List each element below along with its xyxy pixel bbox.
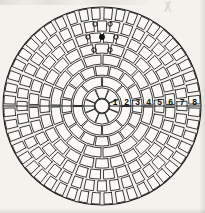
ring-label-3: 3 xyxy=(135,97,140,107)
grid-cell xyxy=(103,55,121,67)
grid-cell xyxy=(152,156,166,170)
polar-grid-diagram: 12345678 xyxy=(0,0,205,213)
grid-cell xyxy=(51,87,63,105)
grid-cell xyxy=(104,192,113,204)
grid-cell xyxy=(29,93,39,104)
filled-dot-marker xyxy=(99,34,104,39)
grid-cell xyxy=(167,63,180,76)
grid-cell xyxy=(24,63,37,76)
grid-cell xyxy=(91,8,100,20)
grid-cell xyxy=(175,114,186,125)
grid-cell xyxy=(186,119,199,129)
grid-cell xyxy=(41,84,53,98)
ring-label-1: 1 xyxy=(113,97,118,107)
grid-cell xyxy=(97,181,107,191)
center-hub xyxy=(95,99,109,113)
grid-cell xyxy=(172,125,184,137)
grid-cell xyxy=(79,9,89,22)
grid-cell xyxy=(17,88,28,99)
grid-cell xyxy=(8,70,21,81)
center-hub-circle xyxy=(95,99,109,113)
grid-cell xyxy=(30,52,44,65)
grid-cell xyxy=(51,107,63,125)
grid-cell xyxy=(95,66,109,76)
grid-cell xyxy=(110,179,121,190)
grid-cell xyxy=(84,179,95,190)
ring-label-6: 6 xyxy=(168,97,173,107)
grid-cell xyxy=(126,12,137,25)
grid-cell xyxy=(135,58,150,73)
grid-cell xyxy=(132,28,145,41)
grid-cell xyxy=(76,166,89,178)
grid-cell xyxy=(80,155,94,167)
grid-cell xyxy=(83,55,101,67)
grid-cell xyxy=(121,24,133,36)
grid-cell xyxy=(143,34,156,48)
grid-cell xyxy=(126,187,137,200)
grid-cell xyxy=(183,70,196,81)
grid-cell xyxy=(120,73,135,88)
grid-cell xyxy=(115,9,125,22)
grid-cell xyxy=(91,192,100,204)
grid-cell xyxy=(172,75,184,87)
grid-cell xyxy=(69,73,84,88)
grid-cell xyxy=(69,124,84,139)
grid-cell xyxy=(143,164,156,178)
grid-cell xyxy=(110,155,124,167)
grid-cell xyxy=(20,75,32,87)
ring-label-2: 2 xyxy=(124,97,129,107)
grid-cell xyxy=(17,114,28,125)
grid-cell xyxy=(24,136,37,149)
grid-cell xyxy=(103,33,114,43)
grid-cell xyxy=(54,58,69,73)
grid-cell xyxy=(167,136,180,149)
ring-label-5: 5 xyxy=(157,97,162,107)
grid-cell xyxy=(66,12,77,25)
grid-cell xyxy=(97,21,107,31)
ring-label-7: 7 xyxy=(180,97,185,107)
grid-cell xyxy=(95,136,109,146)
grid-cell xyxy=(188,108,200,117)
grid-cell xyxy=(162,120,174,133)
grid-cell xyxy=(59,28,72,41)
grid-cell xyxy=(4,108,16,117)
grid-cell xyxy=(95,44,109,54)
grid-cell xyxy=(54,139,69,154)
grid-cell xyxy=(103,145,121,157)
figure-canvas: 12345678 xyxy=(0,0,205,213)
grid-cell xyxy=(132,171,145,184)
grid-cell xyxy=(39,43,53,57)
grid-cell xyxy=(152,43,166,57)
ring-label-8: 8 xyxy=(192,97,197,107)
grid-cell xyxy=(5,119,18,129)
grid-cell xyxy=(110,21,121,32)
grid-cell xyxy=(59,171,72,184)
grid-cell xyxy=(115,190,125,203)
grid-cell xyxy=(83,145,101,157)
grid-cell xyxy=(162,80,174,93)
ring-label-4: 4 xyxy=(146,97,151,107)
grid-cell xyxy=(116,166,129,178)
grid-cell xyxy=(135,139,150,154)
grid-cell xyxy=(8,130,21,141)
grid-cell xyxy=(30,147,44,160)
grid-cell xyxy=(183,130,196,141)
grid-cell xyxy=(160,147,174,160)
grid-cell xyxy=(103,169,114,179)
grid-cell xyxy=(121,176,133,188)
grid-cell xyxy=(89,33,100,43)
grid-cell xyxy=(160,52,174,65)
grid-cell xyxy=(95,159,109,169)
grid-cell xyxy=(165,107,175,118)
grid-cell xyxy=(4,95,16,104)
grid-cell xyxy=(89,169,100,179)
grid-cell xyxy=(29,107,39,118)
grid-cell xyxy=(186,83,199,93)
grid-cell xyxy=(71,24,83,36)
grid-cell xyxy=(20,125,32,137)
grid-cell xyxy=(120,124,135,139)
grid-cell xyxy=(141,107,153,125)
grid-cell xyxy=(104,8,113,20)
grid-cell xyxy=(39,156,53,170)
grid-cell xyxy=(71,176,83,188)
